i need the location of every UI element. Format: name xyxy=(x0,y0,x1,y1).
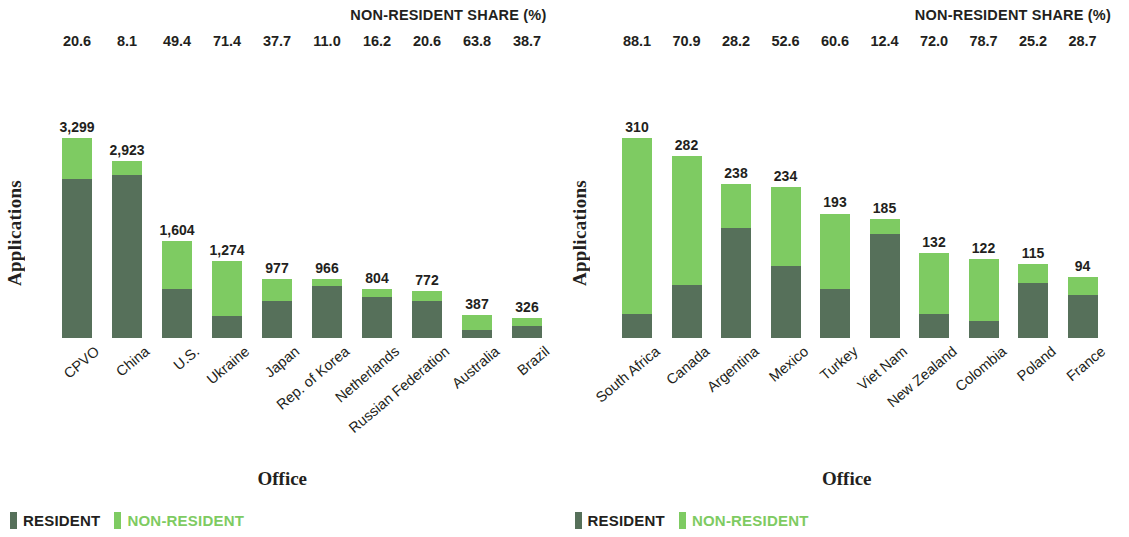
dual-chart-container: NON-RESIDENT SHARE (%) 20.68.149.471.437… xyxy=(0,0,1129,537)
bar-value-label: 966 xyxy=(315,260,338,276)
bar-segment-resident xyxy=(919,314,949,338)
x-axis-tick-label: Brazil xyxy=(541,343,542,344)
bar-segment-non-resident xyxy=(412,291,442,301)
x-axis-tick-label: Mexico xyxy=(800,343,801,344)
legend-label-non-resident: NON-RESIDENT xyxy=(127,512,244,529)
bar-value-label: 387 xyxy=(465,296,488,312)
y-axis-title: Applications xyxy=(4,180,26,286)
x-axis-tick-label: Poland xyxy=(1047,343,1048,344)
x-axis-tick-label: Colombia xyxy=(998,343,999,344)
legend-label-resident: RESIDENT xyxy=(23,512,100,529)
bar-segment-non-resident xyxy=(512,318,542,326)
bar-value-label: 115 xyxy=(1022,245,1045,261)
bar-segment-non-resident xyxy=(622,138,652,314)
bar-segment-resident xyxy=(622,314,652,338)
legend-label-resident: RESIDENT xyxy=(588,512,665,529)
chart-panel-right: NON-RESIDENT SHARE (%) 88.170.928.252.66… xyxy=(565,0,1129,537)
bar-value-label: 234 xyxy=(774,168,797,184)
x-axis-tick-label: Viet Nam xyxy=(899,343,900,344)
legend-item-non-resident: NON-RESIDENT xyxy=(114,512,244,529)
x-axis-tick-label: Japan xyxy=(291,343,292,344)
x-axis-tick-label: Netherlands xyxy=(391,343,392,344)
legend-swatch-non-resident-icon xyxy=(114,512,121,529)
bar-south-africa: 310 xyxy=(622,138,652,338)
bar-segment-resident xyxy=(771,266,801,338)
x-axis-tick-label: New Zealand xyxy=(948,343,949,344)
bar-australia: 387 xyxy=(462,315,492,338)
bar-value-label: 282 xyxy=(675,137,698,153)
x-axis-tick-label: France xyxy=(1097,343,1098,344)
bar-poland: 115 xyxy=(1018,264,1048,338)
bar-plot-area: 3,299CPVO2,923China1,604U.S.1,274Ukraine… xyxy=(0,0,565,537)
bar-segment-resident xyxy=(462,330,492,338)
bar-segment-non-resident xyxy=(870,219,900,234)
bar-segment-non-resident xyxy=(969,259,999,321)
x-axis-tick-label: Turkey xyxy=(849,343,850,344)
bar-segment-non-resident xyxy=(820,214,850,289)
bar-japan: 977 xyxy=(262,279,292,338)
bar-value-label: 3,299 xyxy=(59,119,94,135)
bar-segment-non-resident xyxy=(162,241,192,289)
x-axis-title: Office xyxy=(565,468,1129,490)
bar-segment-resident xyxy=(262,301,292,338)
bar-turkey: 193 xyxy=(820,213,850,338)
bar-rep-of-korea: 966 xyxy=(312,279,342,338)
bar-segment-non-resident xyxy=(1018,264,1048,283)
bar-value-label: 310 xyxy=(625,119,648,135)
bar-france: 94 xyxy=(1068,277,1098,338)
bar-new-zealand: 132 xyxy=(919,253,949,338)
bar-value-label: 804 xyxy=(365,270,388,286)
x-axis-tick-label: Rep. of Korea xyxy=(341,343,342,344)
bar-segment-resident xyxy=(672,285,702,338)
bar-segment-resident xyxy=(162,289,192,338)
bar-value-label: 326 xyxy=(515,299,538,315)
bar-segment-resident xyxy=(1018,283,1048,338)
bar-value-label: 977 xyxy=(265,260,288,276)
bar-segment-resident xyxy=(312,286,342,338)
legend-label-non-resident: NON-RESIDENT xyxy=(692,512,809,529)
bar-segment-non-resident xyxy=(212,261,242,316)
bar-china: 2,923 xyxy=(112,161,142,338)
bar-segment-resident xyxy=(721,228,751,338)
bar-segment-resident xyxy=(512,326,542,338)
bar-argentina: 238 xyxy=(721,184,751,338)
chart-legend: RESIDENT NON-RESIDENT xyxy=(10,512,244,529)
bar-netherlands: 804 xyxy=(362,289,392,338)
x-axis-tick-label: Russian Federation xyxy=(441,343,442,344)
x-axis-tick-label: Argentina xyxy=(750,343,751,344)
bar-ukraine: 1,274 xyxy=(212,261,242,338)
bar-segment-resident xyxy=(412,301,442,338)
bar-russian-federation: 772 xyxy=(412,291,442,338)
bar-value-label: 772 xyxy=(415,272,438,288)
bar-value-label: 132 xyxy=(922,234,945,250)
bar-plot-area: 310South Africa282Canada238Argentina234M… xyxy=(565,0,1129,537)
chart-panel-left: NON-RESIDENT SHARE (%) 20.68.149.471.437… xyxy=(0,0,565,537)
bar-value-label: 238 xyxy=(724,165,747,181)
x-axis-tick-label: Australia xyxy=(491,343,492,344)
bar-value-label: 193 xyxy=(823,194,846,210)
bar-value-label: 1,274 xyxy=(209,242,244,258)
bar-mexico: 234 xyxy=(771,187,801,338)
bar-segment-non-resident xyxy=(919,253,949,314)
bar-value-label: 122 xyxy=(972,240,995,256)
bar-segment-resident xyxy=(870,234,900,339)
x-axis-tick-label: China xyxy=(141,343,142,344)
bar-segment-non-resident xyxy=(362,289,392,297)
bar-brazil: 326 xyxy=(512,318,542,338)
bar-segment-non-resident xyxy=(112,161,142,175)
x-axis-tick-label: Ukraine xyxy=(241,343,242,344)
bar-segment-resident xyxy=(112,175,142,338)
bar-value-label: 2,923 xyxy=(109,142,144,158)
chart-legend: RESIDENT NON-RESIDENT xyxy=(575,512,809,529)
y-axis-title: Applications xyxy=(569,180,591,286)
bar-segment-non-resident xyxy=(721,184,751,227)
bar-segment-non-resident xyxy=(1068,277,1098,294)
x-axis-tick-label: South Africa xyxy=(651,343,652,344)
bar-segment-resident xyxy=(62,179,92,338)
bar-segment-resident xyxy=(820,289,850,338)
legend-swatch-resident-icon xyxy=(10,512,17,529)
bar-value-label: 94 xyxy=(1075,258,1091,274)
bar-segment-non-resident xyxy=(672,156,702,285)
bar-u-s-: 1,604 xyxy=(162,241,192,338)
x-axis-tick-label: Canada xyxy=(701,343,702,344)
